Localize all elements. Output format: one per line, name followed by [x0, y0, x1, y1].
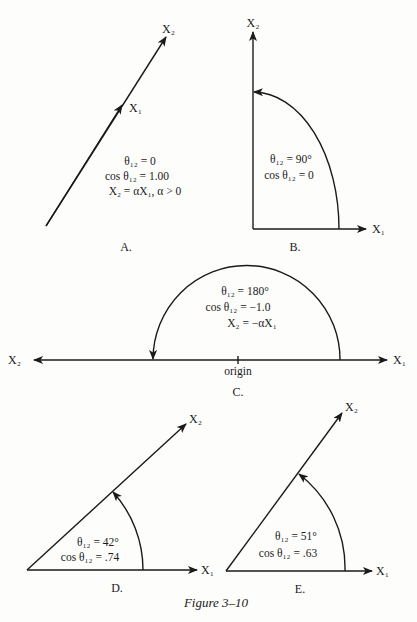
panel-c: X₂ X₁ θ₁₂ = 180° cos θ₁₂ = −1.0 X₂ = −αX… [8, 265, 406, 399]
x1-label: X₁ [201, 563, 214, 577]
theta-eq: θ₁₂ = 42° [77, 536, 119, 548]
panel-label: D. [111, 581, 123, 595]
x2-label: X₂ [8, 353, 21, 367]
cos-eq: cos θ₁₂ = .74 [61, 551, 120, 563]
x2-vector-arrow-icon [27, 424, 186, 570]
vector-angle-diagram: X₂ X₁ θ₁₂ = 0 cos θ₁₂ = 1.00 X₂ = αX₁, α… [0, 0, 417, 622]
x1-label: X₁ [393, 353, 406, 367]
figure-3-10: X₂ X₁ θ₁₂ = 0 cos θ₁₂ = 1.00 X₂ = αX₁, α… [0, 0, 417, 622]
x2-label: X₂ [162, 22, 175, 36]
cos-eq: cos θ₁₂ = −1.0 [206, 301, 271, 313]
panel-e: X₂ X₁ θ₁₂ = 51° cos θ₁₂ = .63 E. [226, 400, 389, 596]
theta-eq: θ₁₂ = 90° [270, 153, 312, 165]
figure-caption: Figure 3–10 [183, 595, 249, 610]
x1-label: X₁ [129, 101, 142, 115]
x1-label: X₁ [372, 222, 385, 236]
origin-label: origin [224, 365, 252, 378]
theta-eq: θ₁₂ = 51° [275, 530, 317, 542]
panel-a: X₂ X₁ θ₁₂ = 0 cos θ₁₂ = 1.00 X₂ = αX₁, α… [46, 22, 182, 254]
panel-d: X₂ X₁ θ₁₂ = 42° cos θ₁₂ = .74 D. [27, 412, 214, 595]
panel-label: E. [295, 582, 305, 596]
panel-b: X₂ X₁ θ₁₂ = 90° cos θ₁₂ = 0 B. [247, 16, 385, 254]
x2-label: X₂ [247, 16, 260, 30]
x2-label: X₂ [345, 400, 358, 414]
relation-eq: X₂ = αX₁, α > 0 [109, 185, 182, 198]
x2-label: X₂ [189, 412, 202, 426]
panel-label: B. [289, 240, 300, 254]
theta-eq: θ₁₂ = 180° [221, 285, 269, 297]
panel-label: A. [120, 240, 132, 254]
cos-eq: cos θ₁₂ = 1.00 [105, 170, 169, 182]
vector-x1-arrow-icon [46, 105, 122, 226]
cos-eq: cos θ₁₂ = .63 [259, 547, 318, 559]
theta-eq: θ₁₂ = 0 [124, 155, 156, 167]
x1-label: X₁ [376, 564, 389, 578]
cos-eq: cos θ₁₂ = 0 [264, 169, 314, 181]
relation-eq: X₂ = −αX₁ [227, 317, 276, 329]
panel-label: C. [232, 385, 243, 399]
